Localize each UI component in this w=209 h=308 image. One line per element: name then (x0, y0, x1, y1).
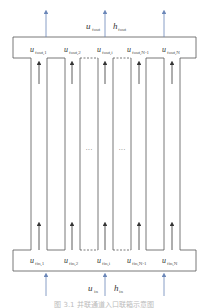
svg-text:u: u (64, 256, 68, 265)
svg-text:fout,N-1: fout,N-1 (132, 50, 150, 56)
svg-text:u: u (88, 283, 93, 293)
svg-text:in: in (94, 289, 98, 294)
svg-text:fin,N-1: fin,N-1 (132, 261, 147, 267)
svg-text:fout,1: fout,1 (35, 50, 47, 56)
ellipsis-right: ··· (119, 146, 126, 154)
svg-text:fin,2: fin,2 (69, 261, 79, 267)
svg-text:u: u (30, 256, 34, 265)
inlet-label: u in h in (88, 283, 123, 294)
channel-outlet-labels: u fout,1 u fout,2 u fout,i u fout,N-1 u … (30, 45, 180, 56)
svg-text:u: u (97, 45, 101, 54)
channel-arrows-bottom (39, 224, 172, 250)
svg-text:fin,N: fin,N (167, 261, 178, 267)
channel-arrows-top (39, 63, 172, 84)
header-outline (13, 37, 196, 271)
svg-text:u: u (86, 21, 91, 31)
svg-text:fout,i: fout,i (102, 50, 113, 56)
svg-text:u: u (127, 256, 131, 265)
header-channel-diagram: ··· ··· u fout h fout u fout,1 u (0, 0, 209, 308)
svg-text:fout: fout (118, 27, 127, 32)
outlet-arrows (46, 12, 164, 37)
svg-text:u: u (162, 45, 166, 54)
outlet-label: u fout h fout (86, 21, 127, 32)
svg-text:u: u (162, 256, 166, 265)
svg-text:fout,2: fout,2 (69, 50, 81, 56)
svg-text:in: in (119, 289, 123, 294)
inlet-arrows (46, 275, 164, 296)
svg-text:u: u (30, 45, 34, 54)
svg-text:fin,1: fin,1 (35, 261, 45, 267)
svg-text:fin,i: fin,i (102, 261, 111, 267)
svg-text:fout,N: fout,N (167, 50, 180, 56)
dashed-divider-caps (80, 58, 131, 250)
channel-dividers (47, 58, 164, 250)
svg-text:u: u (64, 45, 68, 54)
svg-text:u: u (127, 45, 131, 54)
svg-text:fout: fout (92, 27, 101, 32)
ellipsis-left: ··· (86, 146, 93, 154)
channel-inlet-labels: u fin,1 u fin,2 u fin,i u fin,N-1 u fin,… (30, 256, 178, 267)
figure-caption: 图 3.1 并联通道入口联箱示意图 (54, 300, 154, 308)
svg-text:u: u (97, 256, 101, 265)
